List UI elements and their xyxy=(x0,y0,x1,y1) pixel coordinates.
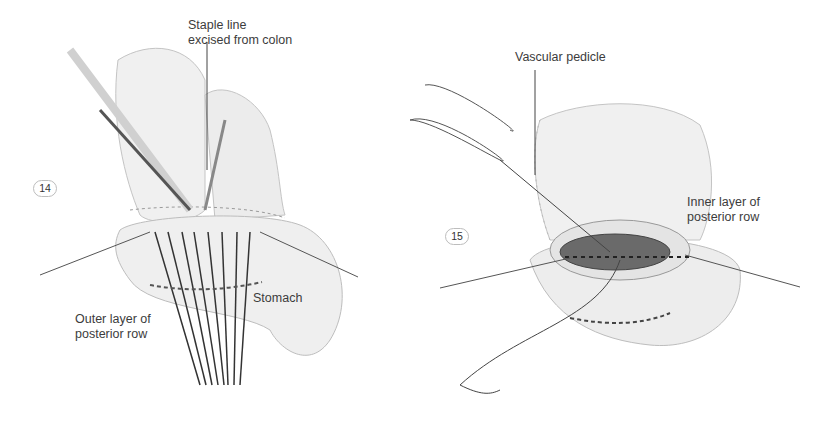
figure-number-badge: 14 xyxy=(33,180,57,197)
label-staple-line: Staple line excised from colon xyxy=(188,18,292,48)
figure-14: 14 Staple line excised from colon Stomac… xyxy=(0,0,400,423)
figure-number-badge: 15 xyxy=(445,228,469,245)
illustration-inner-layer-anastomosis xyxy=(400,0,832,423)
label-inner-layer: Inner layer of posterior row xyxy=(687,195,760,225)
illustration-colon-stomach-outer-layer xyxy=(0,0,400,423)
label-outer-layer: Outer layer of posterior row xyxy=(75,312,151,342)
label-stomach: Stomach xyxy=(253,291,302,306)
label-vascular-pedicle: Vascular pedicle xyxy=(515,50,606,65)
figure-15: 15 Vascular pedicle Inner layer of poste… xyxy=(400,0,832,423)
